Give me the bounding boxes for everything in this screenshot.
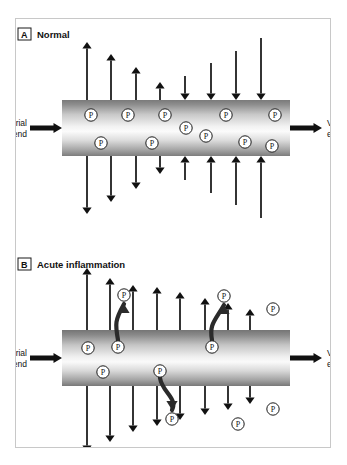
flow-arrow-head-up-out-1 [106,54,115,61]
venous-flow-arrow-A [290,123,322,133]
protein-label: P [236,420,241,429]
protein-label: P [86,344,91,353]
protein-marker-inside-A-1: P [122,109,134,121]
panel-b-acute-inflammation: BAcute inflammationArterialendVenousendP… [16,258,330,447]
panel-title-B: Acute inflammation [37,259,125,270]
capillary-vessel-B [62,330,290,386]
protein-label: P [210,343,215,352]
protein-label: P [204,132,209,141]
flow-arrow-head-down-out-7 [245,398,254,405]
protein-marker-inside-A-8: P [146,137,158,149]
flow-arrow-head-up-out-7 [245,309,254,316]
protein-marker-inside-B-1: P [112,341,124,353]
arterial-end-label-line1-A: Arterial [16,118,27,128]
panel-tag-letter-B: B [21,260,28,270]
flow-arrow-head-up-in-3 [256,156,265,163]
flow-arrow-head-down-out-3 [155,168,164,175]
arterial-end-label-line2-A: end [16,129,27,139]
protein-marker-inside-B-4: P [154,365,166,377]
venous-end-label-line2-A: end [327,129,330,139]
panel-a-normal: ANormalArterialendVenousendPPPPPPPPPPP [16,28,330,218]
protein-marker-inside-A-5: P [220,109,232,121]
flow-arrow-head-up-out-3 [152,287,161,294]
arterial-end-label-line1-B: Arterial [16,348,27,358]
protein-label: P [89,111,94,120]
protein-escape-arrowhead-2 [166,401,177,410]
protein-marker-inside-A-10: P [266,140,278,152]
flow-arrow-head-up-out-2 [131,67,140,74]
arterial-flow-arrow-B [30,353,62,363]
protein-label: P [163,111,168,120]
protein-label: P [116,343,121,352]
flow-arrow-head-up-in-0 [180,156,189,163]
flow-arrow-head-up-in-1 [206,156,215,163]
protein-marker-inside-A-9: P [239,136,251,148]
protein-label: P [222,292,227,301]
venous-flow-arrow-B [290,353,322,363]
protein-label: P [270,142,275,151]
flow-arrow-head-down-in-1 [206,94,215,101]
flow-arrow-head-up-out-5 [200,298,209,305]
flow-arrow-head-down-in-0 [180,94,189,101]
protein-label: P [224,111,229,120]
protein-marker-inside-B-2: P [206,341,218,353]
protein-label: P [158,367,163,376]
protein-marker-inside-B-3: P [97,366,109,378]
protein-marker-outside-B-3: P [166,413,178,425]
protein-marker-outside-B-4: P [232,418,244,430]
protein-label: P [101,368,106,377]
flow-arrow-head-down-out-1 [105,436,114,443]
panel-tag-letter-A: A [21,30,28,40]
protein-label: P [271,405,276,414]
flow-arrow-head-up-out-4 [175,292,184,299]
arterial-end-label-line2-B: end [16,359,27,369]
protein-label: P [150,139,155,148]
venous-end-label-line1-A: Venous [327,118,330,128]
protein-label: P [184,124,189,133]
protein-marker-outside-B-1: P [218,290,230,302]
protein-label: P [122,291,127,300]
flow-arrow-head-down-out-3 [152,420,161,427]
protein-marker-inside-A-4: P [200,130,212,142]
figure-root: ANormalArterialendVenousendPPPPPPPPPPP B… [0,0,347,465]
protein-label: P [126,111,131,120]
protein-label: P [99,139,104,148]
flow-arrow-head-down-out-1 [106,196,115,203]
flow-arrow-head-down-out-2 [131,183,140,190]
venous-end-label-line2-B: end [327,359,330,369]
protein-label: P [170,415,175,424]
flow-arrow-head-up-out-2 [128,285,137,292]
flow-arrow-head-down-in-3 [256,94,265,101]
flow-arrow-head-down-in-2 [231,94,240,101]
panel-title-A: Normal [37,29,70,40]
protein-marker-inside-A-7: P [95,137,107,149]
capillary-diagram: ANormalArterialendVenousendPPPPPPPPPPP B… [16,19,330,447]
protein-marker-inside-A-6: P [269,109,281,121]
protein-marker-inside-A-0: P [85,109,97,121]
protein-marker-outside-B-0: P [118,289,130,301]
protein-marker-inside-A-3: P [180,122,192,134]
flow-arrow-head-up-out-1 [105,278,114,285]
figure-frame: ANormalArterialendVenousendPPPPPPPPPPP B… [15,18,331,448]
flow-arrow-head-down-out-2 [128,426,137,433]
protein-marker-outside-B-2: P [267,303,279,315]
protein-marker-outside-B-5: P [267,403,279,415]
flow-arrow-head-down-out-5 [200,409,209,416]
protein-label: P [271,305,276,314]
protein-marker-inside-B-0: P [82,342,94,354]
protein-label: P [243,138,248,147]
flow-arrow-head-up-out-0 [82,42,91,49]
flow-arrow-head-up-out-3 [155,82,164,89]
flow-arrow-head-down-out-0 [82,208,91,215]
protein-marker-inside-A-2: P [159,109,171,121]
flow-arrow-head-up-in-2 [231,156,240,163]
protein-label: P [273,111,278,120]
flow-arrow-head-down-out-0 [82,446,91,448]
arterial-flow-arrow-A [30,123,62,133]
flow-arrow-head-down-out-6 [223,404,232,411]
venous-end-label-line1-B: Venous [327,348,330,358]
